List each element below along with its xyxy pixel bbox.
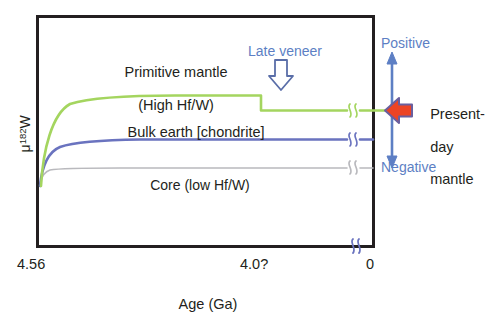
present-day-label-line1: Present- — [430, 106, 485, 122]
present-day-mantle-label: Present- day mantle — [414, 90, 476, 204]
present-day-label-line2: day — [430, 139, 453, 155]
primitive-mantle-label-line1: Primitive mantle — [124, 64, 227, 80]
x-axis-tick-4-0: 4.0? — [240, 256, 268, 272]
core-label: Core (low Hf/W) — [120, 178, 280, 194]
y-axis-title-element: W — [17, 115, 33, 128]
x-axis-tick-0: 0 — [366, 256, 374, 272]
y-axis-title-mass: 182 — [17, 128, 28, 144]
bulk-earth-label: Bulk earth [chondrite] — [106, 124, 286, 140]
x-axis-tick-4-56: 4.56 — [17, 256, 45, 272]
positive-label: Positive — [381, 36, 430, 52]
y-axis-title: μ182W — [18, 96, 34, 172]
primitive-mantle-label-line2: (High Hf/W) — [138, 97, 214, 113]
present-day-mantle-arrow-icon — [385, 98, 412, 123]
present-day-label-line3: mantle — [430, 171, 474, 187]
primitive-mantle-label: Primitive mantle (High Hf/W) — [88, 48, 248, 129]
late-veneer-label: Late veneer — [236, 44, 334, 60]
y-axis-title-mu: μ — [17, 144, 33, 152]
x-axis-title: Age (Ga) — [148, 296, 268, 312]
